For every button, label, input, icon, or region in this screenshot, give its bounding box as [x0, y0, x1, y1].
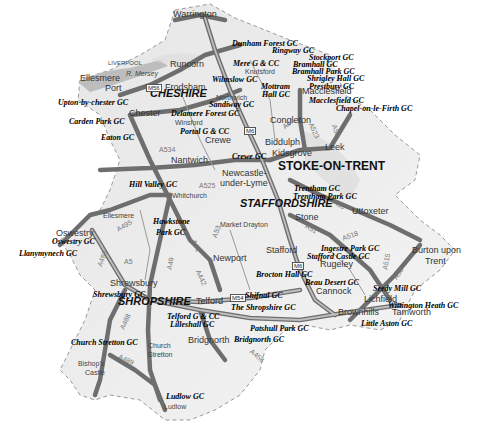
- road-label: A5: [124, 258, 133, 265]
- mersey-label: R. Mersey: [126, 70, 158, 77]
- town-label: Nantwich: [171, 156, 208, 165]
- liverpool-label: LIVERPOOL: [108, 60, 142, 66]
- town-label: Shrewsbury: [110, 279, 158, 288]
- golf-club-label: Oswestry GC: [52, 238, 95, 246]
- town-label: Biddulph: [265, 138, 300, 147]
- town-label: Port: [105, 84, 122, 93]
- golf-club-label: Hill Valley GC: [129, 181, 177, 189]
- town-label: under-Lyme: [220, 179, 268, 188]
- golf-club-label: Shifnal GC: [245, 292, 283, 300]
- golf-club-label: Lilleshall GC: [170, 321, 214, 329]
- town-label: Castle: [85, 369, 105, 376]
- golf-club-label: Hawkstone: [153, 218, 190, 226]
- golf-club-label: Llanymynech GC: [19, 250, 77, 258]
- road-label: A525: [199, 182, 215, 189]
- golf-club-label: Trentham Park GC: [293, 193, 357, 201]
- town-label: Market Drayton: [220, 221, 268, 228]
- golf-club-label: Shrewsbury GC: [93, 291, 145, 299]
- golf-club-label: Carden Park GC: [69, 118, 125, 126]
- town-label: Newcastle-: [222, 169, 267, 178]
- town-label: Bishop's: [78, 360, 104, 367]
- town-label: Chester: [129, 109, 161, 118]
- town-label: Warrington: [173, 10, 217, 19]
- golf-club-label: Beau Desert GC: [305, 279, 359, 287]
- town-label: Church: [148, 342, 171, 349]
- golf-club-label: Bridgnorth GC: [234, 336, 284, 344]
- town-label: Newport: [213, 254, 247, 263]
- town-label: Trent: [425, 257, 446, 266]
- golf-club-label: Mere G & CC: [233, 60, 279, 68]
- town-label: Stretton: [148, 351, 173, 358]
- golf-club-label: Seedy Mill GC: [373, 285, 421, 293]
- golf-club-label: Delamere Forest GC: [171, 110, 239, 118]
- town-label: Brownhills: [338, 308, 379, 317]
- town-label: Burton upon: [412, 246, 461, 255]
- town-label: Winsford: [175, 119, 203, 126]
- golf-club-label: Crewe GC: [232, 153, 266, 161]
- golf-club-label: Upton-by-chester GC: [58, 99, 128, 107]
- town-label: Knutsford: [245, 68, 275, 75]
- motorway-shield: M54: [230, 294, 246, 302]
- golf-club-label: Hall GC: [262, 91, 290, 99]
- golf-club-label: Church Stretton GC: [71, 339, 138, 347]
- town-label: Frodsham: [165, 83, 206, 92]
- town-label: Uttoxeter: [352, 207, 389, 216]
- road-label: A534: [159, 146, 175, 153]
- golf-club-label: Little Aston GC: [361, 320, 412, 328]
- motorway-shield: M6: [292, 262, 304, 270]
- golf-club-label: Patshull Park GC: [250, 325, 309, 333]
- town-label: Whitchurch: [172, 192, 207, 199]
- motorway-shield: M56: [146, 84, 162, 92]
- golf-club-label: The Shropshire GC: [231, 304, 295, 312]
- golf-club-label: Sandiway GC: [209, 101, 254, 109]
- golf-courses-map: LIVERPOOL R. Mersey CHESHIRE STAFFORDSHI…: [0, 0, 482, 442]
- town-label: Rugeley: [320, 260, 353, 269]
- town-label: Runcorn: [170, 60, 204, 69]
- golf-club-label: Park GC: [156, 229, 185, 237]
- golf-club-label: Stafford Castle GC: [307, 253, 370, 261]
- town-label: Telford: [196, 297, 223, 306]
- city-stoke-on-trent: STOKE-ON-TRENT: [278, 160, 385, 172]
- golf-club-label: Portal G & CC: [180, 128, 229, 136]
- golf-club-label: Chapel-on-le-Firth GC: [336, 105, 412, 113]
- motorway-shield: M6: [244, 127, 256, 135]
- town-label: Stone: [295, 213, 319, 222]
- golf-club-label: Prestbury GC: [309, 83, 354, 91]
- golf-club-label: Wittington Heath GC: [388, 302, 458, 310]
- golf-club-label: Eaton GC: [101, 134, 134, 142]
- golf-club-label: Wilmslow GC: [212, 76, 257, 84]
- town-label: Bridgnorth: [188, 336, 230, 345]
- town-label: Leek: [325, 143, 345, 152]
- town-label: Ellesmere: [80, 74, 120, 83]
- town-label: Cannock: [316, 287, 352, 296]
- town-label: Kidsgrove: [272, 149, 312, 158]
- town-label: Ludlow: [164, 403, 186, 410]
- golf-club-label: Ludlow GC: [166, 393, 204, 401]
- golf-club-label: Brocton Hall GC: [256, 271, 312, 279]
- golf-club-label: Ringway GC: [272, 47, 314, 55]
- town-label: Crewe: [205, 136, 231, 145]
- town-label: Stafford: [266, 246, 297, 255]
